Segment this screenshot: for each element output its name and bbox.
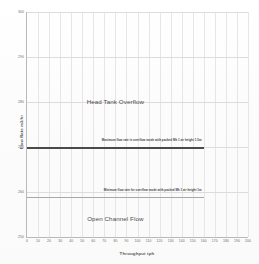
x-axis-tick-label: 140 (179, 239, 185, 243)
x-gridline (93, 12, 94, 237)
x-gridline (204, 12, 205, 237)
y-axis-tick-label: 260 (18, 190, 24, 194)
x-axis-tick-label: 10 (36, 239, 40, 243)
x-axis-tick-label: 170 (212, 239, 218, 243)
x-gridline (71, 12, 72, 237)
x-gridline (215, 12, 216, 237)
x-gridline (149, 12, 150, 237)
y-axis-tick-label: 290 (18, 55, 24, 59)
x-axis-tick-label: 30 (58, 239, 62, 243)
y-axis-tick-label: 300 (18, 10, 24, 14)
x-gridline (160, 12, 161, 237)
x-axis-tick-label: 180 (223, 239, 229, 243)
x-gridline (38, 12, 39, 237)
line-caption: Minimum flow rate for overflow mode with… (104, 188, 202, 192)
x-axis-tick-label: 20 (47, 239, 51, 243)
x-axis-tick-label: 80 (113, 239, 117, 243)
y-gridline (27, 192, 248, 193)
chart-page: Flow Rate m3/hr Throughput tph 010203040… (0, 0, 259, 264)
line-caption: Maximum flow rate in overflow mode with … (102, 138, 202, 142)
y-gridline (27, 57, 248, 58)
x-axis-tick-label: 70 (102, 239, 106, 243)
x-axis-tick-label: 0 (26, 239, 28, 243)
x-gridline (138, 12, 139, 237)
x-axis-tick-label: 90 (124, 239, 128, 243)
x-axis-tick-label: 150 (190, 239, 196, 243)
x-axis-title: Throughput tph (120, 251, 155, 256)
x-axis-tick-label: 110 (146, 239, 152, 243)
x-axis-tick-label: 120 (157, 239, 163, 243)
x-axis-tick-label: 130 (168, 239, 174, 243)
x-gridline (104, 12, 105, 237)
region-label: Head Tank Overflow (87, 98, 144, 105)
x-axis-tick-label: 160 (201, 239, 207, 243)
x-gridline (126, 12, 127, 237)
y-axis-tick-label: 280 (18, 100, 24, 104)
x-gridline (49, 12, 50, 237)
region-label: Open Channel Flow (87, 215, 143, 222)
x-gridline (226, 12, 227, 237)
data-series-line (27, 197, 204, 198)
x-gridline (60, 12, 61, 237)
x-gridline (193, 12, 194, 237)
plot-area: 0102030405060708090100110120130140150160… (26, 12, 248, 238)
data-series-line (27, 147, 204, 149)
y-gridline (27, 12, 248, 13)
x-gridline (248, 12, 249, 237)
x-gridline (237, 12, 238, 237)
x-axis-tick-label: 190 (234, 239, 240, 243)
y-axis-tick-label: 270 (18, 145, 24, 149)
x-gridline (115, 12, 116, 237)
x-gridline (182, 12, 183, 237)
y-axis-tick-label: 250 (18, 235, 24, 239)
x-axis-tick-label: 60 (91, 239, 95, 243)
x-axis-tick-label: 100 (135, 239, 141, 243)
x-axis-tick-label: 50 (80, 239, 84, 243)
x-axis-tick-label: 200 (245, 239, 251, 243)
x-gridline (171, 12, 172, 237)
x-axis-tick-label: 40 (69, 239, 73, 243)
x-gridline (82, 12, 83, 237)
